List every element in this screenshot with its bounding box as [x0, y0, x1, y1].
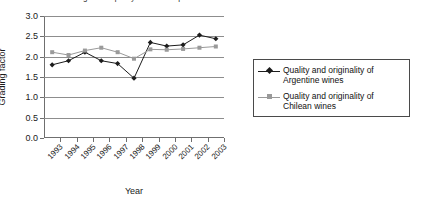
- plot-area: 0.00.51.01.52.02.53.0: [44, 16, 224, 138]
- data-point-marker: [99, 58, 104, 63]
- data-point-marker: [197, 46, 201, 50]
- legend-item[interactable]: Quality and originality of Chilean wines: [258, 91, 403, 111]
- y-axis-title: Grading factor: [0, 48, 7, 105]
- series-layer: [44, 16, 224, 138]
- legend-square-marker-icon: [258, 92, 280, 103]
- x-axis-title: Year: [125, 186, 143, 196]
- legend-item[interactable]: Quality and originality of Argentine win…: [258, 65, 403, 85]
- y-axis-tick-label: 0.5: [25, 113, 38, 122]
- legend-diamond-marker-icon: [258, 66, 280, 77]
- x-axis-tick-label: 2003: [223, 130, 241, 148]
- legend-label: Quality and originality of Argentine win…: [283, 65, 403, 85]
- y-axis-tick-label: 3.0: [25, 12, 38, 21]
- data-point-marker: [67, 53, 71, 57]
- data-point-marker: [50, 50, 54, 54]
- y-axis-tick-label: 1.0: [25, 93, 38, 102]
- data-point-marker: [197, 33, 202, 38]
- data-point-marker: [99, 46, 103, 50]
- y-axis-tick-label: 0.0: [25, 134, 38, 143]
- data-point-marker: [116, 50, 120, 54]
- y-axis-tick-label: 2.5: [25, 32, 38, 41]
- data-point-marker: [50, 62, 55, 67]
- data-point-marker: [132, 57, 136, 61]
- data-point-marker: [214, 45, 218, 49]
- chart-legend: Quality and originality of Argentine win…: [253, 59, 410, 117]
- data-point-marker: [148, 47, 152, 51]
- series-line: [52, 35, 216, 78]
- legend-label: Quality and originality of Chilean wines: [283, 91, 403, 111]
- chart-title: Grading of the quality of the wine produ…: [44, 0, 224, 2]
- y-axis-tick-label: 2.0: [25, 52, 38, 61]
- data-point-marker: [213, 36, 218, 41]
- data-point-marker: [83, 49, 87, 53]
- data-point-marker: [66, 58, 71, 63]
- y-axis-tick-label: 1.5: [25, 73, 38, 82]
- data-point-marker: [180, 42, 185, 47]
- data-point-marker: [148, 40, 153, 45]
- data-point-marker: [181, 47, 185, 51]
- y-axis-tick: [40, 138, 44, 139]
- line-chart: Grading of the quality of the wine produ…: [0, 0, 425, 217]
- data-point-marker: [165, 48, 169, 52]
